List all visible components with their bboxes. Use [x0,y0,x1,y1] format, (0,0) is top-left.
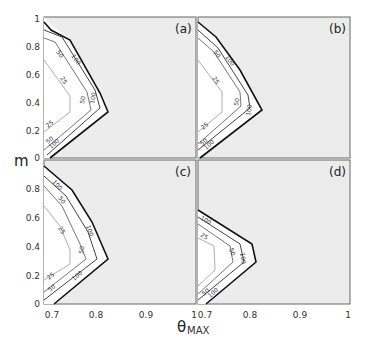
y-axis-ticks-bottom: 0 0.2 0.4 0.6 0.8 [26,184,41,309]
svg-text:MAX: MAX [187,325,209,336]
svg-text:0.8: 0.8 [26,42,41,52]
svg-text:0.7: 0.7 [45,310,59,320]
svg-text:0.8: 0.8 [89,310,104,320]
x-axis-ticks-right: 0.7 0.8 0.9 1 [198,310,351,320]
svg-text:0.2: 0.2 [26,126,40,136]
svg-text:1: 1 [34,14,40,24]
svg-text:0.8: 0.8 [243,310,258,320]
y-axis-ticks-top: 0 0.2 0.4 0.6 0.8 1 [26,14,41,163]
panel-label-b: (b) [329,22,346,36]
svg-text:0: 0 [34,153,40,163]
panel-d: 100 25 50 100 50 100 (d) [198,160,350,304]
svg-text:0.6: 0.6 [26,70,41,80]
panel-a: 100 50 25 100 50 25 50 100 (a) [44,17,196,158]
svg-text:1: 1 [345,310,351,320]
svg-text:0.7: 0.7 [198,310,212,320]
svg-text:0.9: 0.9 [139,310,154,320]
svg-text:0.9: 0.9 [293,310,308,320]
svg-text:0.6: 0.6 [26,213,41,223]
panel-c: 100 50 25 100 50 25 50 100 (c) [44,160,196,304]
svg-text:50: 50 [232,97,240,106]
svg-text:1: 1 [191,310,197,320]
svg-text:0.4: 0.4 [26,98,41,108]
contour-figure: 100 50 25 100 50 25 50 100 (a) 100 50 25… [0,0,366,342]
svg-text:0.4: 0.4 [26,242,41,252]
svg-text:0: 0 [34,299,40,309]
svg-text:50: 50 [77,245,85,254]
panel-label-a: (a) [175,22,192,36]
svg-text:0.2: 0.2 [26,271,40,281]
y-axis-label: m [14,152,29,170]
panel-label-c: (c) [175,165,191,179]
panel-label-d: (d) [329,165,346,179]
svg-text:0.8: 0.8 [26,184,41,194]
svg-text:θ: θ [177,318,186,336]
x-axis-ticks-left: 0.7 0.8 0.9 1 [45,310,197,320]
svg-text:50: 50 [78,95,86,104]
x-axis-label: θ MAX [177,318,209,336]
panel-b: 100 50 25 100 50 25 50 100 (b) [198,17,350,158]
